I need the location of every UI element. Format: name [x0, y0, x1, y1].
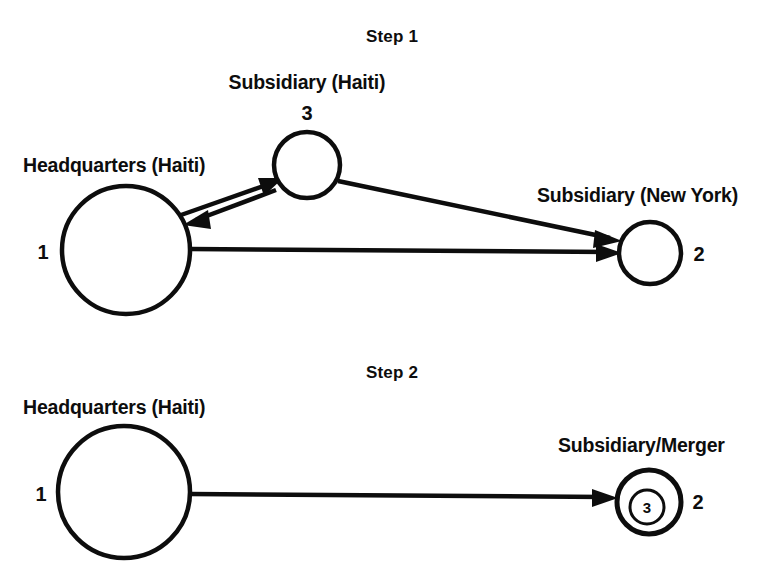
- node-number-3-merged: 3: [643, 499, 651, 516]
- merger-diagram-canvas: Step 1 Subsidiary (Haiti) 3 Headquarters…: [0, 0, 784, 575]
- node-number-3: 3: [301, 102, 312, 124]
- node-subsidiary-new-york[interactable]: 2: [619, 222, 705, 284]
- edge-hq-to-new-york-line: [190, 249, 609, 252]
- edge-hq-to-subsidiary-haiti: [181, 178, 283, 215]
- node-label-subsidiary-merger: Subsidiary/Merger: [558, 434, 725, 456]
- node-label-headquarters-haiti-step2: Headquarters (Haiti): [23, 396, 205, 418]
- edge-hq-to-merger: [190, 489, 618, 507]
- node-subsidiary-merger[interactable]: 3 2: [617, 470, 704, 534]
- step-1-panel: Step 1 Subsidiary (Haiti) 3 Headquarters…: [23, 27, 738, 314]
- node-label-subsidiary-haiti: Subsidiary (Haiti): [229, 71, 386, 93]
- step-2-title: Step 2: [366, 363, 418, 382]
- node-number-1: 1: [37, 241, 48, 263]
- edge-hq-to-new-york: [190, 244, 622, 262]
- node-headquarters-haiti-step2-circle[interactable]: [58, 426, 190, 558]
- edge-hq-to-merger-line: [190, 494, 605, 497]
- node-number-1-step2: 1: [35, 483, 46, 505]
- edge-hq-to-merger-arrowhead: [592, 489, 618, 507]
- diagram-figure: Step 1 Subsidiary (Haiti) 3 Headquarters…: [0, 0, 784, 575]
- step-2-panel: Step 2 Headquarters (Haiti) Subsidiary/M…: [23, 363, 725, 558]
- step-1-title: Step 1: [366, 27, 418, 46]
- node-headquarters-haiti-circle[interactable]: [62, 186, 190, 314]
- node-headquarters-haiti[interactable]: 1: [37, 186, 190, 314]
- node-number-2-step2: 2: [692, 491, 703, 513]
- node-label-subsidiary-new-york: Subsidiary (New York): [537, 184, 738, 206]
- node-subsidiary-haiti-circle[interactable]: [274, 132, 340, 198]
- node-number-2: 2: [693, 243, 704, 265]
- node-subsidiary-new-york-circle[interactable]: [619, 222, 681, 284]
- node-label-headquarters-haiti: Headquarters (Haiti): [23, 154, 205, 176]
- node-subsidiary-haiti[interactable]: [274, 132, 340, 198]
- node-headquarters-haiti-step2[interactable]: 1: [35, 426, 190, 558]
